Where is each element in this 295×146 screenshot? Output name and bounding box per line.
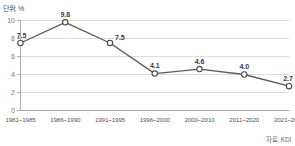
x-tick-label: 1986~1990 xyxy=(50,116,81,123)
data-point-marker xyxy=(286,84,291,89)
data-point-value-label: 4.0 xyxy=(239,63,249,70)
data-point-value-label: 7.5 xyxy=(115,34,125,41)
data-point-value-label: 4.6 xyxy=(195,58,205,65)
x-tick-label: 1991~1995 xyxy=(95,116,126,123)
x-tick-label: 2011~2020 xyxy=(229,116,259,123)
source-label: 자료: KDI xyxy=(266,134,291,144)
data-point-marker xyxy=(152,71,157,76)
y-tick-label-0: 0 xyxy=(11,107,15,114)
data-point-marker xyxy=(242,72,247,77)
y-tick-label-8: 8 xyxy=(11,35,15,42)
x-tick-label: 1981~1985 xyxy=(5,116,36,123)
data-point-value-label: 9.8 xyxy=(60,11,70,18)
y-tick-label-6: 6 xyxy=(11,53,15,60)
data-point-marker xyxy=(18,40,23,45)
y-tick-label-2: 2 xyxy=(11,89,15,96)
x-tick-labels: 1981~19851986~19901991~19951996~20002000… xyxy=(5,116,295,123)
chart-plot-area: 0246810 7.59.87.54.14.64.02.7 1981~19851… xyxy=(0,0,295,146)
y-tick-label-10: 10 xyxy=(7,17,15,24)
data-point-markers xyxy=(18,20,292,89)
data-point-marker xyxy=(107,40,112,45)
data-point-value-label: 7.5 xyxy=(17,32,27,39)
y-tick-label-4: 4 xyxy=(11,71,15,78)
data-point-marker xyxy=(63,20,68,25)
x-tick-label: 2021~2030 xyxy=(274,116,295,123)
x-tick-label: 2000~2010 xyxy=(184,116,215,123)
x-tick-label: 1996~2000 xyxy=(140,116,171,123)
data-point-value-label: 4.1 xyxy=(150,62,160,69)
data-point-value-label: 2.7 xyxy=(283,75,293,82)
line-chart-figure: 단위: % 0246810 7.59.87.54.14.64.02.7 1981… xyxy=(0,0,295,146)
data-point-marker xyxy=(197,66,202,71)
